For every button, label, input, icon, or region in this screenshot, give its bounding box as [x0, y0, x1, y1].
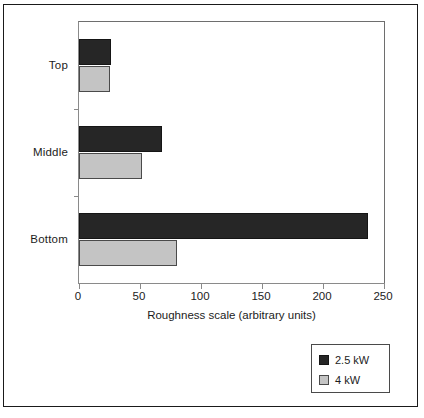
legend-label-2-5-kw: 2.5 kW: [335, 354, 369, 366]
legend-label-4-kw: 4 kW: [335, 374, 360, 386]
bar-middle-4-kw: [79, 153, 142, 179]
x-axis-tick-label: 0: [75, 290, 81, 302]
x-axis-tick: [79, 283, 80, 289]
bar-middle-2-5-kw: [79, 126, 162, 152]
x-axis-tick-label: 250: [373, 290, 392, 302]
y-axis-label-middle: Middle: [33, 146, 68, 158]
x-axis-tick: [323, 283, 324, 289]
y-axis-label-top: Top: [49, 59, 68, 71]
x-axis-title: Roughness scale (arbitrary units): [78, 309, 385, 321]
legend-swatch-2-5-kw: [319, 355, 329, 365]
bars-layer: [79, 22, 384, 283]
x-axis-tick: [262, 283, 263, 289]
x-axis-tick-label: 200: [312, 290, 331, 302]
x-axis-tick-label: 50: [133, 290, 146, 302]
legend-item: 2.5 kW: [319, 351, 389, 369]
x-axis-tick-label: 150: [251, 290, 270, 302]
y-axis-tick: [74, 109, 79, 110]
figure: TopMiddleBottom 050100150200250 Roughnes…: [0, 0, 424, 418]
x-axis-tick: [140, 283, 141, 289]
x-axis-tick: [384, 283, 385, 289]
x-axis-tick-labels: 050100150200250: [78, 290, 385, 304]
bar-bottom-2-5-kw: [79, 213, 368, 239]
bar-top-4-kw: [79, 66, 110, 92]
legend-swatch-4-kw: [319, 375, 329, 385]
plot-area: [78, 21, 385, 284]
y-axis-category-labels: TopMiddleBottom: [0, 21, 76, 284]
y-axis-label-bottom: Bottom: [30, 233, 68, 245]
bar-bottom-4-kw: [79, 240, 177, 266]
y-axis-tick: [74, 196, 79, 197]
x-axis-tick: [201, 283, 202, 289]
bar-top-2-5-kw: [79, 39, 111, 65]
x-axis-tick-label: 100: [190, 290, 209, 302]
chart-legend: 2.5 kW 4 kW: [311, 344, 390, 393]
legend-item: 4 kW: [319, 371, 389, 389]
